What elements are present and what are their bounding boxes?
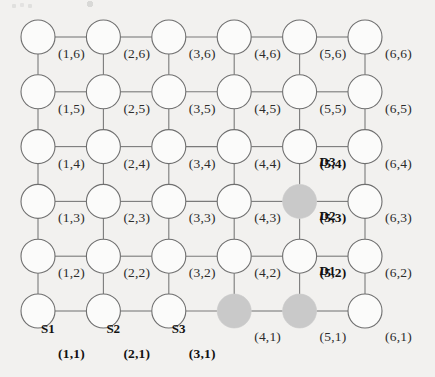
grid-node-shaded[interactable] — [283, 184, 317, 218]
node-name-s1: S1 — [41, 322, 55, 335]
grid-node[interactable] — [283, 130, 317, 164]
grid-node[interactable] — [283, 75, 317, 109]
coordinate-label: (1,4) — [58, 157, 85, 171]
coordinate-label: (2,3) — [123, 211, 150, 225]
node-name-s2: S2 — [106, 322, 120, 335]
coordinate-label: (3,2) — [189, 266, 216, 280]
coordinate-label: (4,4) — [254, 157, 281, 171]
coordinate-label: (2,4) — [123, 157, 150, 171]
coordinate-label: (2,6) — [123, 47, 150, 61]
grid-node[interactable] — [86, 75, 120, 109]
grid-node[interactable] — [217, 239, 251, 273]
grid-node[interactable] — [21, 20, 55, 54]
grid-node[interactable] — [283, 20, 317, 54]
grid-node[interactable] — [152, 184, 186, 218]
grid-node[interactable] — [86, 184, 120, 218]
node-name-d1: D1 — [320, 264, 336, 277]
grid-node[interactable] — [348, 294, 382, 328]
coordinate-label: (2,5) — [123, 102, 150, 116]
coordinate-label: (5,6) — [320, 47, 347, 61]
coordinate-label: (4,6) — [254, 47, 281, 61]
coordinate-label: (6,6) — [385, 47, 412, 61]
grid-node[interactable] — [217, 75, 251, 109]
node-name-d2: D2 — [320, 209, 336, 222]
grid-node[interactable] — [283, 239, 317, 273]
grid-network-diagram: (1,6)(2,6)(3,6)(4,6)(5,6)(6,6)(1,5)(2,5)… — [0, 0, 435, 377]
coordinate-label: (1,1) — [58, 347, 85, 361]
grid-node[interactable] — [217, 130, 251, 164]
coordinate-label: (6,1) — [385, 330, 412, 344]
grid-node[interactable] — [152, 130, 186, 164]
coordinate-label: (2,2) — [123, 266, 150, 280]
coordinate-label: (4,3) — [254, 211, 281, 225]
node-name-d3: D3 — [320, 155, 336, 168]
grid-node[interactable] — [86, 20, 120, 54]
coordinate-label: (5,5) — [320, 102, 347, 116]
grid-node[interactable] — [21, 184, 55, 218]
node-name-s3: S3 — [172, 322, 186, 335]
grid-node[interactable] — [348, 239, 382, 273]
coordinate-label: (3,4) — [189, 157, 216, 171]
grid-node[interactable] — [348, 20, 382, 54]
coordinate-label: (4,1) — [254, 330, 281, 344]
coordinate-label: (3,5) — [189, 102, 216, 116]
grid-node[interactable] — [217, 184, 251, 218]
coordinate-label: (5,1) — [320, 330, 347, 344]
coordinate-label: (4,5) — [254, 102, 281, 116]
coordinate-label: (2,1) — [123, 347, 150, 361]
coordinate-label: (6,5) — [385, 102, 412, 116]
grid-node[interactable] — [348, 130, 382, 164]
grid-node[interactable] — [152, 75, 186, 109]
grid-node[interactable] — [21, 75, 55, 109]
grid-node-shaded[interactable] — [217, 294, 251, 328]
coordinate-label: (1,2) — [58, 266, 85, 280]
coordinate-label: (3,3) — [189, 211, 216, 225]
grid-node[interactable] — [217, 20, 251, 54]
grid-node[interactable] — [21, 239, 55, 273]
grid-node[interactable] — [152, 239, 186, 273]
grid-node[interactable] — [348, 75, 382, 109]
coordinate-label: (6,3) — [385, 211, 412, 225]
coordinate-label: (1,5) — [58, 102, 85, 116]
nodes-layer — [21, 20, 382, 328]
coordinate-label: (3,6) — [189, 47, 216, 61]
grid-node[interactable] — [348, 184, 382, 218]
coordinate-label: (3,1) — [189, 347, 216, 361]
grid-node[interactable] — [21, 130, 55, 164]
grid-node-shaded[interactable] — [283, 294, 317, 328]
grid-node[interactable] — [152, 20, 186, 54]
coordinate-label: (6,4) — [385, 157, 412, 171]
coordinate-label: (1,3) — [58, 211, 85, 225]
coordinate-label: (1,6) — [58, 47, 85, 61]
grid-node[interactable] — [86, 130, 120, 164]
grid-node[interactable] — [86, 239, 120, 273]
coordinate-label: (6,2) — [385, 266, 412, 280]
coordinate-label: (4,2) — [254, 266, 281, 280]
